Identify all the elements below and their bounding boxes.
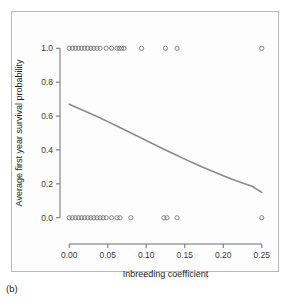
data-point-survived xyxy=(104,46,108,50)
data-point-survived xyxy=(140,46,144,50)
logistic-fit-curve xyxy=(69,104,262,192)
data-point-survived xyxy=(98,46,102,50)
y-tick-label: 0.8 xyxy=(41,77,53,87)
data-point-survived xyxy=(163,46,167,50)
data-point-died xyxy=(104,216,108,220)
x-tick-label: 0.25 xyxy=(253,250,270,260)
x-tick-label: 0.15 xyxy=(176,250,193,260)
y-axis-title: Average first year survival probability xyxy=(14,59,24,206)
data-point-survived xyxy=(109,46,113,50)
axis-labels-group: 0.00.20.40.60.81.00.000.050.100.150.200.… xyxy=(6,43,270,294)
data-point-survived xyxy=(175,46,179,50)
data-points-group xyxy=(67,46,264,220)
fit-curve-group xyxy=(69,104,262,192)
x-tick-label: 0.10 xyxy=(138,250,155,260)
scatter-chart: 0.00.20.40.60.81.00.000.050.100.150.200.… xyxy=(0,0,295,299)
data-point-died xyxy=(260,216,264,220)
y-tick-label: 0.4 xyxy=(41,145,53,155)
x-axis-title: Inbreeding coefficient xyxy=(123,269,209,279)
data-point-died xyxy=(175,216,179,220)
figure-panel-b: 0.00.20.40.60.81.00.000.050.100.150.200.… xyxy=(0,0,295,299)
data-point-died xyxy=(165,216,169,220)
data-point-died xyxy=(129,216,133,220)
data-point-died xyxy=(118,216,122,220)
x-tick-label: 0.05 xyxy=(99,250,116,260)
x-tick-label: 0.20 xyxy=(215,250,232,260)
panel-caption: (b) xyxy=(6,283,18,294)
y-tick-label: 0.6 xyxy=(41,111,53,121)
data-point-survived xyxy=(260,46,264,50)
x-tick-label: 0.00 xyxy=(61,250,78,260)
y-tick-label: 0.0 xyxy=(41,213,53,223)
y-tick-label: 1.0 xyxy=(41,43,53,53)
data-point-died xyxy=(109,216,113,220)
y-tick-label: 0.2 xyxy=(41,179,53,189)
